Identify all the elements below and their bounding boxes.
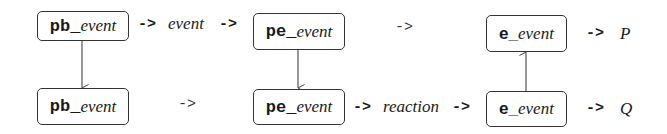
node-pb-event-bottom: pb_event [37, 88, 129, 125]
arrow-bottom-1: -> [178, 95, 196, 115]
arrow-bottom-2: -> [353, 98, 371, 118]
arrow-out-top: -> [586, 24, 604, 44]
arrow-bottom-3: -> [452, 98, 470, 118]
node-prefix: pb_ [50, 97, 81, 116]
node-prefix: pb_ [50, 17, 81, 36]
node-suffix: event [80, 97, 116, 117]
label-reaction: reaction [383, 97, 439, 117]
node-suffix: event [518, 99, 554, 119]
node-suffix: event [80, 16, 116, 36]
arrow-out-bottom: -> [586, 99, 604, 119]
node-prefix: e_ [499, 99, 518, 119]
arrow-top-3: -> [395, 18, 413, 38]
node-prefix: e_ [499, 24, 518, 44]
node-prefix: pe_ [266, 22, 297, 41]
node-prefix: pe_ [266, 98, 297, 117]
node-e-event-top: e_event [486, 15, 567, 52]
node-suffix: event [296, 97, 332, 117]
node-pb-event-top: pb_event [37, 11, 129, 41]
output-q: Q [620, 99, 632, 119]
node-pe-event-bottom: pe_event [253, 89, 345, 125]
node-pe-event-top: pe_event [253, 13, 345, 50]
arrow-top-2: -> [219, 15, 237, 35]
output-p: P [620, 24, 630, 44]
node-e-event-bottom: e_event [486, 91, 567, 127]
node-suffix: event [518, 24, 554, 44]
node-suffix: event [296, 22, 332, 42]
arrow-top-1: -> [138, 15, 156, 35]
label-event: event [168, 14, 204, 34]
